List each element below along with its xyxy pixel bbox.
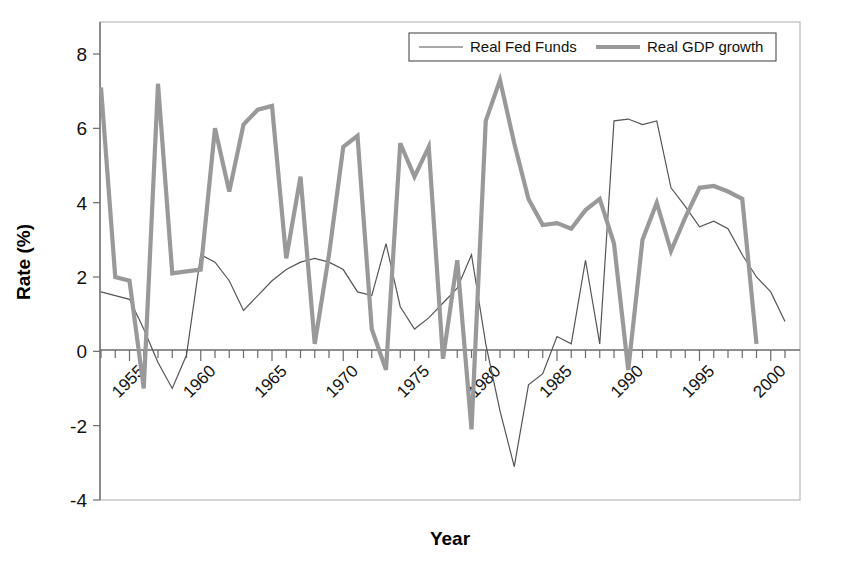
x-tick-label: 1975 xyxy=(393,361,433,401)
x-tick-label: 1995 xyxy=(678,361,718,401)
line-chart: -4-202468 195519601965197019751980198519… xyxy=(0,0,841,566)
x-tick-label: 1985 xyxy=(536,361,576,401)
legend-label: Real Fed Funds xyxy=(470,38,577,55)
x-tick-label: 1970 xyxy=(322,361,362,401)
chart-legend: Real Fed FundsReal GDP growth xyxy=(409,33,776,61)
y-tick-label: 8 xyxy=(76,44,87,65)
x-axis-title: Year xyxy=(430,528,471,549)
y-tick-label: 0 xyxy=(76,341,87,362)
y-tick-label: 6 xyxy=(76,118,87,139)
y-tick-label: -2 xyxy=(70,416,87,437)
legend-label: Real GDP growth xyxy=(647,38,763,55)
y-tick-label: -4 xyxy=(70,490,87,511)
y-tick-label: 4 xyxy=(76,193,87,214)
series-line-real-fed-funds xyxy=(101,119,785,467)
y-axis-title: Rate (%) xyxy=(13,224,34,300)
x-tick-label: 1965 xyxy=(251,361,291,401)
x-tick-label: 1960 xyxy=(179,361,219,401)
series-group xyxy=(101,80,785,467)
y-tick-label: 2 xyxy=(76,267,87,288)
y-tick-group: -4-202468 xyxy=(70,44,100,511)
chart-figure: -4-202468 195519601965197019751980198519… xyxy=(0,0,841,566)
x-tick-label: 2000 xyxy=(749,361,789,401)
x-tick-label-group: 1955196019651970197519801985199019952000 xyxy=(108,361,789,401)
plot-frame xyxy=(100,22,800,500)
